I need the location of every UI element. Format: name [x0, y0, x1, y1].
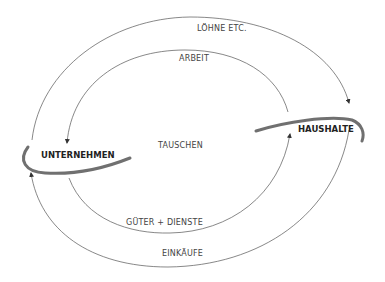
households-node-label: HAUSHALTE: [298, 124, 354, 134]
goods-services-label: GÜTER + DIENSTE: [126, 218, 203, 227]
firms-node-label: UNTERNEHMEN: [41, 150, 115, 160]
exchange-center-label: TAUSCHEN: [158, 141, 203, 150]
purchases-label: EINKÄUFE: [162, 249, 203, 258]
labor-flow-arrow: [67, 50, 288, 143]
wages-label: LÖHNE ETC.: [197, 24, 247, 33]
labor-label: ARBEIT: [179, 54, 209, 63]
